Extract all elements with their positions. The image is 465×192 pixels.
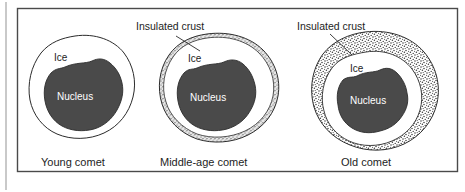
middle-comet-caption: Middle-age comet xyxy=(160,156,247,168)
comet-diagram-svg: Ice Nucleus Young comet Ice Nucleus Insu… xyxy=(0,0,465,192)
young-comet-nucleus-label: Nucleus xyxy=(57,91,93,102)
old-comet-ice-label: Ice xyxy=(350,63,364,74)
middle-comet-nucleus-label: Nucleus xyxy=(190,92,226,103)
comet-evolution-figure: Ice Nucleus Young comet Ice Nucleus Insu… xyxy=(0,0,465,192)
old-comet-caption: Old comet xyxy=(341,156,391,168)
middle-comet-crust-label: Insulated crust xyxy=(136,20,204,32)
old-comet-crust-label: Insulated crust xyxy=(297,20,365,32)
old-comet-nucleus-label: Nucleus xyxy=(350,95,386,106)
young-comet-caption: Young comet xyxy=(41,156,105,168)
young-comet-ice-label: Ice xyxy=(54,52,68,63)
middle-comet-ice-label: Ice xyxy=(188,53,202,64)
